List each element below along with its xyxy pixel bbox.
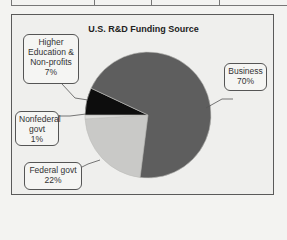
pie-slice-federal-govt <box>85 115 148 178</box>
callout-text: Education & <box>27 47 75 57</box>
callout-text: Business <box>228 66 263 76</box>
callout-value: 1% <box>19 134 55 144</box>
callout-text: Nonfederal <box>19 114 55 124</box>
callout-text: Non-profits <box>27 57 75 67</box>
callout-higher-education: Higher Education & Non-profits 7% <box>23 34 79 84</box>
callout-federal-govt: Federal govt 22% <box>24 162 82 190</box>
callout-value: 70% <box>228 76 263 86</box>
higher-ed-pointer <box>62 84 88 100</box>
callout-value: 7% <box>27 67 75 77</box>
callout-text: govt <box>19 124 55 134</box>
callout-business: Business 70% <box>224 63 267 91</box>
nonfederal-pointer <box>58 114 86 116</box>
callout-nonfederal-govt: Nonfederal govt 1% <box>15 111 59 146</box>
callout-text: Federal govt <box>28 165 78 175</box>
callout-text: Higher <box>27 37 75 47</box>
callout-value: 22% <box>28 175 78 185</box>
